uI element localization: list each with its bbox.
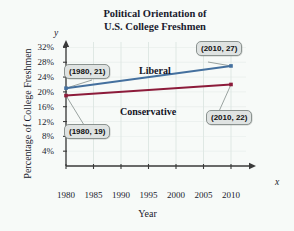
callout-conservative-start: (1980, 19) (64, 124, 110, 139)
y-axis-tick-labels: 4%8%12%16%20%24%28%32% (16, 40, 54, 186)
callout-liberal-start: (1980, 21) (64, 64, 110, 79)
data-point-marker (229, 83, 233, 87)
y-axis-arrowhead (63, 40, 69, 47)
y-axis-letter: y (54, 28, 58, 38)
y-tick-label: 4% (20, 146, 54, 156)
y-tick-label: 20% (20, 87, 54, 97)
callout-leader-line (208, 62, 231, 66)
y-tick-label: 16% (20, 102, 54, 112)
callout-liberal-end: (2010, 27) (196, 41, 242, 56)
x-axis-title: Year (55, 208, 240, 219)
y-tick-label: 32% (20, 42, 54, 52)
x-tick-label: 2010 (213, 190, 249, 200)
data-point-marker (64, 94, 68, 98)
y-tick-label: 24% (20, 72, 54, 82)
x-axis-letter: x (275, 177, 279, 187)
chart-title-line-2: U.S. College Freshmen (60, 21, 250, 34)
data-point-marker (64, 86, 68, 90)
chart-title: Political Orientation of U.S. College Fr… (60, 8, 250, 33)
x-axis-tick-labels: 1980198519901995200020052010 (58, 190, 256, 204)
callout-conservative-end: (2010, 22) (206, 110, 252, 125)
data-point-marker (229, 64, 233, 68)
y-tick-label: 8% (20, 131, 54, 141)
series-label-conservative: Conservative (120, 106, 176, 117)
series-label-liberal: Liberal (139, 65, 171, 76)
chart-title-line-1: Political Orientation of (60, 8, 250, 21)
x-axis-arrowhead (249, 163, 256, 169)
y-tick-label: 12% (20, 117, 54, 127)
y-tick-label: 28% (20, 57, 54, 67)
chart-figure: Political Orientation of U.S. College Fr… (0, 0, 294, 231)
